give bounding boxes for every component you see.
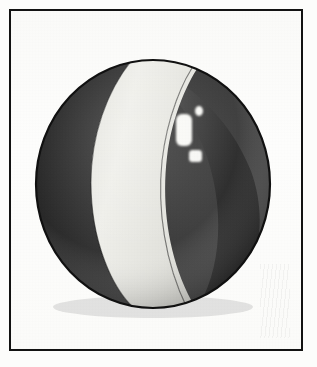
ball-vignette	[36, 60, 270, 308]
frame-interior	[11, 11, 301, 349]
illustration-page	[0, 0, 317, 367]
illustration-stage	[11, 11, 301, 349]
illustration-frame	[9, 9, 303, 351]
beach-ball-figure	[11, 11, 300, 348]
